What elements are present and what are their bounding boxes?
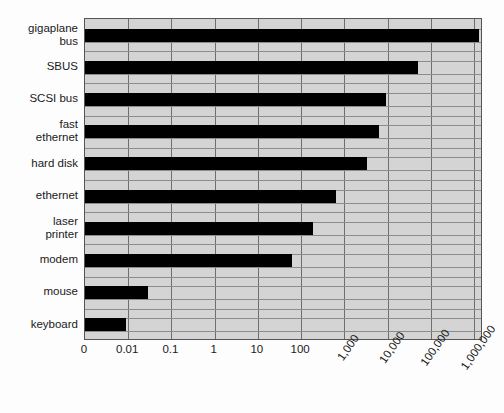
x-tick-label: 0.1 xyxy=(162,343,178,355)
category-label: modem xyxy=(0,253,78,266)
bar xyxy=(85,157,367,170)
horizontal-gridline xyxy=(85,148,481,149)
bar xyxy=(85,125,379,138)
horizontal-gridline xyxy=(85,331,481,332)
horizontal-gridline xyxy=(85,116,481,117)
horizontal-gridline xyxy=(85,106,481,107)
horizontal-gridline xyxy=(85,212,481,213)
horizontal-gridline xyxy=(85,267,481,268)
vertical-gridline xyxy=(474,19,475,339)
category-label: SBUS xyxy=(0,60,78,73)
category-label: laser printer xyxy=(0,215,78,240)
x-tick-label: 100 xyxy=(291,343,310,355)
category-label: fast ethernet xyxy=(0,118,78,143)
horizontal-gridline xyxy=(85,138,481,139)
bar xyxy=(85,29,479,42)
category-label: SCSI bus xyxy=(0,92,78,105)
category-label: ethernet xyxy=(0,189,78,202)
horizontal-gridline xyxy=(85,42,481,43)
bar xyxy=(85,93,386,106)
horizontal-gridline xyxy=(85,51,481,52)
horizontal-gridline xyxy=(85,83,481,84)
bar-chart: gigaplane busSBUSSCSI busfast ethernetha… xyxy=(0,0,504,413)
x-tick-label: 1 xyxy=(210,343,216,355)
x-tick-label: 0 xyxy=(81,343,87,355)
category-label: gigaplane bus xyxy=(0,22,78,47)
horizontal-gridline xyxy=(85,309,481,310)
horizontal-gridline xyxy=(85,244,481,245)
bar xyxy=(85,318,126,331)
horizontal-gridline xyxy=(85,299,481,300)
horizontal-gridline xyxy=(85,318,481,319)
bar xyxy=(85,286,148,299)
horizontal-gridline xyxy=(85,180,481,181)
x-tick-label: 0.01 xyxy=(116,343,138,355)
bar xyxy=(85,222,313,235)
bar xyxy=(85,61,418,74)
horizontal-gridline xyxy=(85,203,481,204)
category-label: keyboard xyxy=(0,318,78,331)
bar xyxy=(85,190,336,203)
bar xyxy=(85,254,292,267)
category-label: mouse xyxy=(0,285,78,298)
horizontal-gridline xyxy=(85,74,481,75)
category-label: hard disk xyxy=(0,157,78,170)
x-axis-tick-labels: 00.010.11101001,00010,000100,0001,000,00… xyxy=(0,340,504,413)
vertical-gridline xyxy=(431,19,432,339)
horizontal-gridline xyxy=(85,277,481,278)
horizontal-gridline xyxy=(85,170,481,171)
x-tick-label: 10 xyxy=(250,343,263,355)
y-axis-category-labels: gigaplane busSBUSSCSI busfast ethernetha… xyxy=(0,18,78,340)
horizontal-gridline xyxy=(85,235,481,236)
plot-area xyxy=(84,18,482,340)
